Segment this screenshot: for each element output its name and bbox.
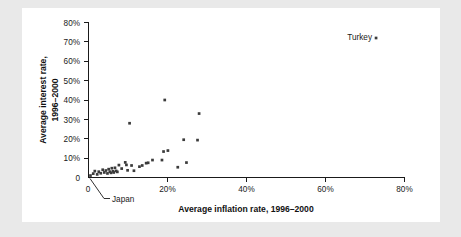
scatter-plot: 80% 70% 60% 50% 40% 30% 20% 10% 0 0 20% … <box>0 0 461 237</box>
x-tick-label-40: 40% <box>238 185 254 194</box>
data-point <box>182 138 185 141</box>
data-point <box>167 149 170 152</box>
figure-root: 80% 70% 60% 50% 40% 30% 20% 10% 0 0 20% … <box>0 0 461 237</box>
data-point <box>130 164 133 167</box>
y-axis-title-line2: 1996–2000 <box>50 78 60 121</box>
y-tick-label-80: 80% <box>64 19 80 28</box>
annotation-label-turkey: Turkey <box>347 33 373 42</box>
data-point <box>96 173 99 176</box>
x-axis-ticks <box>168 178 405 183</box>
y-tick-label-40: 40% <box>64 96 80 105</box>
data-point <box>112 171 115 174</box>
data-point <box>89 174 92 177</box>
data-point <box>124 161 127 164</box>
data-points-layer <box>89 37 377 177</box>
data-point <box>162 150 165 153</box>
japan-leader-line <box>90 179 110 199</box>
data-point <box>116 171 119 174</box>
x-tick-label-0: 0 <box>86 185 91 194</box>
y-tick-label-0: 0 <box>75 174 80 183</box>
y-axis-title-line1: Average interest rate, <box>38 56 48 144</box>
data-point <box>375 37 378 40</box>
data-point <box>93 170 96 173</box>
data-point <box>128 122 131 125</box>
y-tick-label-30: 30% <box>64 116 80 125</box>
data-point <box>176 166 179 169</box>
data-point <box>161 159 164 162</box>
data-point <box>107 168 110 171</box>
data-point <box>114 166 117 169</box>
y-tick-label-60: 60% <box>64 57 80 66</box>
data-point <box>185 161 188 164</box>
data-point <box>101 168 104 171</box>
x-tick-label-60: 60% <box>317 185 333 194</box>
data-point <box>133 169 136 172</box>
y-tick-label-10: 10% <box>64 154 80 163</box>
y-axis-ticks <box>84 23 89 159</box>
data-point <box>106 172 109 175</box>
data-point <box>110 167 113 170</box>
data-point <box>151 159 154 162</box>
data-point <box>198 112 201 115</box>
data-point <box>196 139 199 142</box>
data-point <box>141 164 144 167</box>
annotation-label-japan: Japan <box>112 195 135 204</box>
y-tick-label-20: 20% <box>64 135 80 144</box>
y-tick-label-70: 70% <box>64 38 80 47</box>
data-point <box>118 164 121 167</box>
x-tick-label-20: 20% <box>159 185 175 194</box>
data-point <box>163 99 166 102</box>
data-point <box>92 172 95 175</box>
data-point <box>105 169 108 172</box>
x-tick-label-80: 80% <box>396 185 412 194</box>
data-point <box>126 169 129 172</box>
x-axis-title: Average inflation rate, 1996–2000 <box>178 204 314 214</box>
data-point <box>147 161 150 164</box>
data-point <box>99 172 102 175</box>
data-point <box>125 164 128 167</box>
data-point <box>120 167 123 170</box>
y-tick-label-50: 50% <box>64 77 80 86</box>
data-point <box>138 165 141 168</box>
